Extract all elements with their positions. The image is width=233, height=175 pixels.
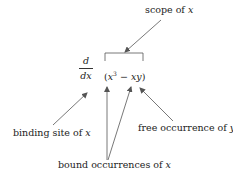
bound-occurrences-label: bound occurrences of x xyxy=(58,160,171,170)
expr-minus: − xyxy=(117,71,131,82)
binding-site-label: binding site of x xyxy=(13,128,91,138)
derivative-denominator: dx xyxy=(79,69,93,81)
scope-label-var: x xyxy=(188,4,193,15)
expr-term: xy xyxy=(131,71,142,82)
scope-label-text: scope of xyxy=(145,4,188,15)
binding-site-arrow xyxy=(53,93,87,125)
binding-site-label-var: x xyxy=(85,127,90,138)
derivative-operator: d dx xyxy=(79,56,93,80)
scope-arrow xyxy=(125,20,161,52)
free-occurrence-label-var: y xyxy=(230,122,233,133)
binding-site-label-text: binding site of xyxy=(13,127,85,138)
bound-occurrences-label-var: x xyxy=(166,159,171,170)
bound-occurrences-label-text: bound occurrences of xyxy=(58,159,166,170)
scope-bracket xyxy=(105,53,143,61)
free-occurrence-arrow xyxy=(140,88,173,121)
expression: (x3 − xy) xyxy=(104,71,145,82)
free-occurrence-label: free occurrence of y xyxy=(138,123,233,133)
arrows-layer xyxy=(0,0,233,175)
expr-close-paren: ) xyxy=(142,71,146,82)
derivative-numerator: d xyxy=(79,56,93,69)
bound-occurrence-arrow-2 xyxy=(108,87,131,160)
scope-label: scope of x xyxy=(145,5,193,15)
free-occurrence-label-text: free occurrence of xyxy=(138,122,230,133)
